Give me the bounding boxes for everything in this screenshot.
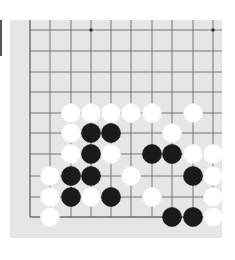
black-stone (62, 167, 81, 186)
board-intersection[interactable] (81, 20, 101, 40)
black-stone (82, 124, 101, 143)
board-grid[interactable] (10, 20, 222, 238)
board-intersection[interactable] (183, 82, 203, 102)
board-intersection[interactable] (20, 20, 40, 40)
board-intersection[interactable] (81, 41, 101, 61)
board-intersection[interactable] (101, 20, 121, 40)
white-stone (184, 104, 203, 123)
board-intersection[interactable] (101, 62, 121, 82)
board-intersection[interactable] (40, 144, 60, 164)
white-stone (143, 188, 162, 207)
board-intersection[interactable] (183, 187, 203, 207)
board-intersection[interactable] (142, 166, 162, 186)
white-stone (62, 104, 81, 123)
white-stone (204, 208, 223, 227)
board-intersection[interactable] (183, 123, 203, 143)
black-stone (184, 208, 203, 227)
board-intersection[interactable] (121, 41, 141, 61)
board-intersection[interactable] (20, 82, 40, 102)
board-intersection[interactable] (142, 123, 162, 143)
black-stone (163, 208, 182, 227)
board-intersection[interactable] (203, 62, 222, 82)
board-intersection[interactable] (101, 82, 121, 102)
board-intersection[interactable] (121, 187, 141, 207)
white-stone (62, 124, 81, 143)
white-stone (41, 188, 60, 207)
board-intersection[interactable] (142, 41, 162, 61)
white-stone (102, 145, 121, 164)
black-stone (82, 145, 101, 164)
board-intersection[interactable] (20, 123, 40, 143)
board-intersection[interactable] (203, 20, 222, 40)
white-stone (122, 104, 141, 123)
board-intersection[interactable] (203, 82, 222, 102)
board-intersection[interactable] (142, 20, 162, 40)
panel-edge-bar (0, 20, 2, 56)
board-intersection[interactable] (162, 20, 182, 40)
white-stone (143, 104, 162, 123)
board-intersection[interactable] (61, 207, 81, 227)
board-intersection[interactable] (40, 41, 60, 61)
board-intersection[interactable] (162, 82, 182, 102)
board-intersection[interactable] (81, 82, 101, 102)
board-intersection[interactable] (162, 166, 182, 186)
white-stone (204, 167, 223, 186)
white-stone (82, 104, 101, 123)
board-intersection[interactable] (121, 207, 141, 227)
board-intersection[interactable] (142, 62, 162, 82)
board-intersection[interactable] (40, 62, 60, 82)
black-stone (82, 167, 101, 186)
board-intersection[interactable] (20, 207, 40, 227)
board-intersection[interactable] (101, 166, 121, 186)
black-stone (143, 145, 162, 164)
board-intersection[interactable] (61, 41, 81, 61)
board-intersection[interactable] (40, 20, 60, 40)
black-stone (102, 124, 121, 143)
board-intersection[interactable] (20, 187, 40, 207)
board-intersection[interactable] (121, 123, 141, 143)
board-intersection[interactable] (162, 103, 182, 123)
white-stone (204, 188, 223, 207)
board-intersection[interactable] (121, 20, 141, 40)
board-intersection[interactable] (40, 123, 60, 143)
white-stone (41, 167, 60, 186)
board-intersection[interactable] (81, 207, 101, 227)
board-intersection[interactable] (20, 166, 40, 186)
black-stone (163, 145, 182, 164)
white-stone (122, 167, 141, 186)
board-intersection[interactable] (40, 82, 60, 102)
board-intersection[interactable] (203, 41, 222, 61)
board-intersection[interactable] (162, 187, 182, 207)
white-stone (204, 145, 223, 164)
white-stone (102, 104, 121, 123)
board-intersection[interactable] (40, 103, 60, 123)
board-intersection[interactable] (183, 20, 203, 40)
board-intersection[interactable] (203, 103, 222, 123)
board-intersection[interactable] (142, 207, 162, 227)
black-stone (62, 188, 81, 207)
board-intersection[interactable] (142, 82, 162, 102)
board-intersection[interactable] (61, 82, 81, 102)
board-intersection[interactable] (183, 41, 203, 61)
board-intersection[interactable] (20, 144, 40, 164)
board-intersection[interactable] (121, 62, 141, 82)
board-intersection[interactable] (101, 41, 121, 61)
board-intersection[interactable] (162, 41, 182, 61)
board-intersection[interactable] (183, 62, 203, 82)
board-intersection[interactable] (20, 41, 40, 61)
go-board[interactable] (10, 20, 222, 238)
board-intersection[interactable] (121, 144, 141, 164)
board-intersection[interactable] (121, 82, 141, 102)
board-intersection[interactable] (101, 207, 121, 227)
board-intersection[interactable] (61, 62, 81, 82)
white-stone (82, 188, 101, 207)
board-intersection[interactable] (203, 123, 222, 143)
board-intersection[interactable] (162, 62, 182, 82)
board-intersection[interactable] (81, 62, 101, 82)
black-stone (184, 167, 203, 186)
board-intersection[interactable] (20, 103, 40, 123)
board-intersection[interactable] (20, 62, 40, 82)
white-stone (41, 208, 60, 227)
black-stone (102, 188, 121, 207)
board-intersection[interactable] (61, 20, 81, 40)
